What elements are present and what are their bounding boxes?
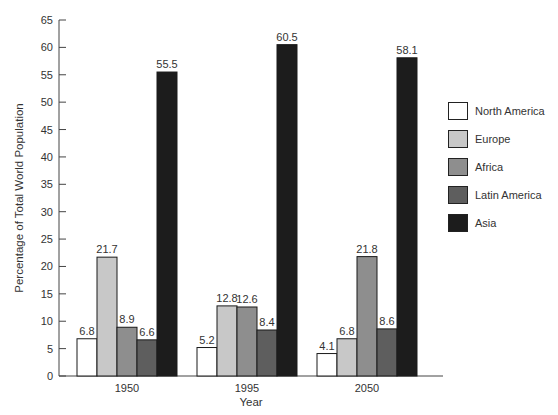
y-tick-label: 15 <box>41 288 53 300</box>
bar-europe <box>97 257 117 376</box>
legend-label: Asia <box>475 217 496 229</box>
bar-latin-america <box>137 340 157 376</box>
legend-item-africa: Africa <box>448 153 545 181</box>
y-tick-label: 0 <box>47 370 53 382</box>
bar-value-label: 6.8 <box>79 325 94 337</box>
bar-value-label: 4.1 <box>319 340 334 352</box>
y-tick-label: 30 <box>41 206 53 218</box>
bar-north-america <box>317 354 337 376</box>
legend-swatch <box>448 186 468 204</box>
bar-north-america <box>77 339 97 376</box>
bar-asia <box>397 58 417 376</box>
bar-europe <box>337 339 357 376</box>
bar-africa <box>237 307 257 376</box>
x-tick-label: 1950 <box>115 382 139 394</box>
bar-asia <box>157 72 177 376</box>
y-tick-label: 35 <box>41 178 53 190</box>
y-tick-label: 60 <box>41 41 53 53</box>
x-axis: 195019952050 <box>59 376 443 394</box>
x-axis-title: Year <box>239 396 262 408</box>
bar-value-label: 12.6 <box>236 293 257 305</box>
bar-groups: 6.821.78.96.655.55.212.812.68.460.54.16.… <box>77 31 418 376</box>
x-tick-label: 2050 <box>355 382 379 394</box>
y-tick-label: 5 <box>47 343 53 355</box>
legend-swatch <box>448 158 468 176</box>
bar-africa <box>117 327 137 376</box>
bar-value-label: 58.1 <box>396 44 417 56</box>
legend-label: North America <box>475 105 545 117</box>
legend-label: Africa <box>475 161 503 173</box>
y-tick-label: 50 <box>41 96 53 108</box>
legend-item-europe: Europe <box>448 125 545 153</box>
bar-africa <box>357 257 377 376</box>
bar-value-label: 6.6 <box>139 326 154 338</box>
y-tick-label: 45 <box>41 124 53 136</box>
y-axis-title: Percentage of Total World Population <box>13 103 25 292</box>
y-tick-label: 55 <box>41 69 53 81</box>
legend-item-latin-america: Latin America <box>448 181 545 209</box>
bar-value-label: 21.8 <box>356 243 377 255</box>
bar-latin-america <box>377 329 397 376</box>
legend-label: Latin America <box>475 189 542 201</box>
y-tick-label: 10 <box>41 315 53 327</box>
bar-group-2050: 4.16.821.88.658.1 <box>317 44 418 376</box>
bar-value-label: 8.6 <box>379 315 394 327</box>
bar-asia <box>277 45 297 376</box>
legend-swatch <box>448 130 468 148</box>
legend-swatch <box>448 102 468 120</box>
legend-item-asia: Asia <box>448 209 545 237</box>
legend-item-north-america: North America <box>448 97 545 125</box>
bar-group-1950: 6.821.78.96.655.5 <box>77 58 178 376</box>
bar-value-label: 8.4 <box>259 316 274 328</box>
y-tick-label: 20 <box>41 260 53 272</box>
bar-value-label: 55.5 <box>156 58 177 70</box>
bar-value-label: 6.8 <box>339 325 354 337</box>
legend-swatch <box>448 214 468 232</box>
y-tick-label: 25 <box>41 233 53 245</box>
x-tick-label: 1995 <box>235 382 259 394</box>
legend: North AmericaEuropeAfricaLatin AmericaAs… <box>448 97 545 237</box>
y-axis: 05101520253035404550556065 <box>41 14 66 382</box>
bar-north-america <box>197 348 217 376</box>
bar-value-label: 8.9 <box>119 313 134 325</box>
bar-latin-america <box>257 330 277 376</box>
bar-value-label: 12.8 <box>216 292 237 304</box>
bar-value-label: 60.5 <box>276 31 297 43</box>
bar-value-label: 21.7 <box>96 243 117 255</box>
y-tick-label: 40 <box>41 151 53 163</box>
bar-value-label: 5.2 <box>199 334 214 346</box>
bar-group-1995: 5.212.812.68.460.5 <box>197 31 298 376</box>
legend-label: Europe <box>475 133 510 145</box>
y-tick-label: 65 <box>41 14 53 26</box>
bar-europe <box>217 306 237 376</box>
